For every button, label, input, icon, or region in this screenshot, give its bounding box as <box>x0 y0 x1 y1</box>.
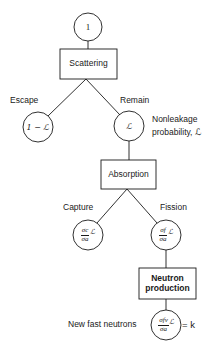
result-value: σfν σa ℒ <box>151 310 181 340</box>
connector-fission <box>127 189 157 223</box>
remain-value: ℒ <box>114 111 144 141</box>
result-fraction: σfν σa <box>158 317 169 333</box>
absorption-box-label: Absorption <box>101 160 156 189</box>
fission-factor: ℒ <box>168 228 173 236</box>
fission-value: σf σa ℒ <box>151 220 181 250</box>
escape-label: Escape <box>10 96 38 105</box>
capture-value: σc σa ℒ <box>73 220 103 250</box>
escape-value-text: 1 − ℒ <box>27 123 50 132</box>
connector-remain <box>86 79 120 115</box>
start-node-label: 1 <box>74 13 102 41</box>
neutron-production-line2: production <box>145 284 189 294</box>
fission-denominator: σa <box>160 236 167 244</box>
result-denominator: σa <box>160 326 167 334</box>
neutron-production-box-label: Neutron production <box>139 268 196 299</box>
nonleakage-note-line2: probability, ℒ <box>152 128 201 137</box>
capture-fraction: σc σa <box>81 227 90 243</box>
fission-label: Fission <box>160 203 187 212</box>
capture-factor: ℒ <box>90 228 95 236</box>
fission-fraction: σf σa <box>159 227 166 243</box>
new-fast-neutrons-label: New fast neutrons <box>68 320 137 329</box>
remain-value-text: ℒ <box>126 122 132 131</box>
remain-label: Remain <box>120 96 149 105</box>
scattering-box-label: Scattering <box>60 49 117 79</box>
k-equation: = k <box>182 319 195 330</box>
connector-capture <box>97 189 127 223</box>
connector-escape <box>48 79 86 116</box>
nonleakage-note-line1: Nonleakage <box>152 115 197 124</box>
escape-value: 1 − ℒ <box>23 112 53 142</box>
result-factor: ℒ <box>169 318 174 326</box>
capture-denominator: σa <box>82 236 89 244</box>
capture-label: Capture <box>63 203 93 212</box>
